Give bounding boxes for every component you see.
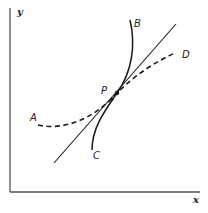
curve-a-label: A <box>29 112 37 123</box>
tangent-diagram: y x P B C A D <box>0 0 208 213</box>
point-marker-secondary <box>110 97 113 100</box>
curve-d-label: D <box>182 49 190 60</box>
curve-b-label: B <box>134 18 141 29</box>
x-axis-label: x <box>192 194 200 205</box>
point-p-label: P <box>101 85 108 96</box>
curve-c-label: C <box>93 150 100 161</box>
point-p-marker <box>115 91 119 95</box>
curve-b-c <box>92 20 133 150</box>
y-axis-label: y <box>16 6 24 17</box>
